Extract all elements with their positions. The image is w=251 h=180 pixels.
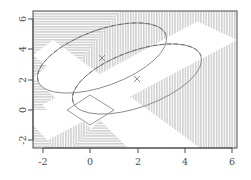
figure-canvas: 6 4 2 0 -2 -2 0 2 4 6 [0, 0, 251, 180]
x-tick-label-2: 2 [135, 156, 141, 167]
y-tick-label-neg2: -2 [17, 135, 28, 144]
y-tick-label-2: 2 [17, 77, 28, 83]
x-tick-label-4: 4 [182, 156, 188, 167]
y-tick-label-0: 0 [17, 107, 28, 113]
statistical-plot: 6 4 2 0 -2 -2 0 2 4 6 [0, 0, 251, 180]
x-tick-label-0: 0 [87, 156, 93, 167]
x-axis [43, 148, 232, 153]
y-tick-label-6: 6 [17, 16, 28, 22]
plot-interior [29, 0, 237, 180]
y-axis [28, 19, 33, 140]
y-tick-label-4: 4 [17, 46, 28, 52]
x-tick-label-neg2: -2 [38, 156, 47, 167]
x-tick-label-6: 6 [229, 156, 235, 167]
spacer [180, 0, 237, 11]
